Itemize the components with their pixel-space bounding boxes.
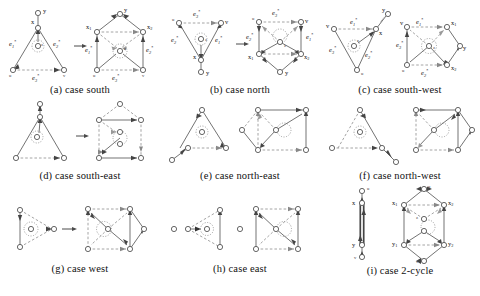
svg-text:x: x xyxy=(352,199,356,206)
panel-h: (h) case east xyxy=(160,195,320,290)
panel-i-diagram: u x y v xyxy=(320,183,480,269)
svg-text:y: y xyxy=(124,6,128,13)
svg-text:x1: x1 xyxy=(86,23,91,31)
svg-text:u: u xyxy=(172,17,175,22)
panel-d-right-graph xyxy=(96,101,143,160)
figure-graph-case-diagrams: y x z u v e1* e2* e3* xyxy=(0,0,480,296)
svg-text:x: x xyxy=(193,53,197,60)
svg-text:e3*: e3* xyxy=(396,40,404,49)
panel-d-diagram xyxy=(0,100,160,172)
panel-c-right-graph: v x1 z y u x2 e1* e3* e2* xyxy=(396,17,467,77)
svg-text:y: y xyxy=(463,44,467,51)
panel-f-diagram xyxy=(320,100,480,172)
svg-text:v: v xyxy=(142,73,145,78)
svg-text:z: z xyxy=(284,43,286,48)
panel-h-right-graph xyxy=(237,206,300,251)
svg-text:y: y xyxy=(382,6,386,13)
svg-text:x2: x2 xyxy=(448,199,453,207)
svg-text:x1: x1 xyxy=(392,199,397,207)
svg-text:y: y xyxy=(206,69,210,76)
panel-b-diagram: u v z x y e3* e2* e1* xyxy=(160,2,320,82)
svg-text:u: u xyxy=(402,68,405,73)
panel-a-caption: (a) case south xyxy=(0,84,160,95)
svg-text:x: x xyxy=(379,29,383,36)
svg-text:u: u xyxy=(367,186,370,191)
svg-text:u: u xyxy=(428,184,431,189)
panel-h-diagram xyxy=(160,195,320,265)
svg-text:y2: y2 xyxy=(448,240,453,248)
svg-text:x2: x2 xyxy=(147,23,152,31)
svg-text:e2*: e2* xyxy=(53,39,61,48)
panel-e-diagram xyxy=(160,100,320,172)
svg-text:z: z xyxy=(205,37,207,42)
panel-i-right-graph: u x1 x2 z y1 y2 v xyxy=(392,184,453,264)
panel-a-diagram: y x z u v e1* e2* e3* xyxy=(0,2,160,82)
svg-text:e2*: e2* xyxy=(171,35,179,44)
panel-c-diagram: v x z u y e1* e3* e2* xyxy=(320,2,480,82)
svg-text:x1: x1 xyxy=(248,53,253,61)
panel-f: (f) case north-west xyxy=(320,100,480,190)
svg-text:e2*: e2* xyxy=(246,32,254,41)
panel-d-left-graph xyxy=(13,101,66,160)
svg-text:e3*: e3* xyxy=(329,45,337,54)
panel-b-left-graph: u v z x y e3* e2* e1* xyxy=(171,9,229,76)
panel-f-left-graph xyxy=(329,107,398,164)
panel-c-left-graph: v x z u y e1* e3* e2* xyxy=(326,6,391,76)
panel-e-caption: (e) case north-east xyxy=(160,170,320,181)
svg-text:u: u xyxy=(93,73,96,78)
svg-text:e1*: e1* xyxy=(85,45,93,54)
svg-text:v: v xyxy=(326,22,330,29)
panel-d-caption: (d) case south-east xyxy=(0,170,160,181)
svg-text:e3*: e3* xyxy=(32,73,40,82)
panel-c-caption: (c) case south-west xyxy=(320,84,480,95)
panel-c: v x z u y e1* e3* e2* xyxy=(320,2,480,102)
panel-e-left-graph xyxy=(169,107,228,162)
panel-g-left-graph xyxy=(17,207,56,249)
svg-text:v: v xyxy=(305,17,309,24)
svg-text:e1*: e1* xyxy=(215,35,223,44)
panel-i: u x y v xyxy=(320,183,480,290)
svg-text:u: u xyxy=(252,16,255,21)
svg-text:e1*: e1* xyxy=(416,17,424,26)
panel-h-caption: (h) case east xyxy=(160,263,320,274)
panel-i-caption: (i) case 2-cycle xyxy=(320,265,480,276)
panel-e-right-graph xyxy=(239,107,308,152)
svg-text:e1*: e1* xyxy=(306,32,314,41)
svg-text:y: y xyxy=(285,69,289,76)
panel-b-caption: (b) case north xyxy=(160,84,320,95)
svg-text:x: x xyxy=(31,18,35,25)
panel-a-left-graph: y x z u v e1* e2* e3* xyxy=(9,7,67,83)
panel-b: u v z x y e3* e2* e1* xyxy=(160,2,320,102)
panel-h-left-graph xyxy=(171,207,222,249)
svg-text:z: z xyxy=(433,45,435,50)
svg-text:v: v xyxy=(63,73,66,78)
svg-text:x2: x2 xyxy=(304,53,309,61)
panel-i-left-graph: u x y v xyxy=(352,186,370,260)
svg-text:z: z xyxy=(357,38,359,43)
svg-text:x1: x1 xyxy=(451,19,456,27)
panel-g-caption: (g) case west xyxy=(0,263,160,274)
panel-g: (g) case west xyxy=(0,195,160,290)
svg-text:e1*: e1* xyxy=(350,17,358,26)
svg-text:z: z xyxy=(41,42,43,47)
svg-text:z: z xyxy=(124,46,126,51)
panel-a-right-graph: y x1 x2 z u v e1* e2* e3* xyxy=(85,6,154,83)
svg-text:e1*: e1* xyxy=(9,39,17,48)
panel-g-right-graph xyxy=(85,206,146,251)
svg-text:y: y xyxy=(352,241,356,248)
panel-a: y x z u v e1* e2* e3* xyxy=(0,2,160,102)
svg-text:x2: x2 xyxy=(451,64,456,72)
svg-text:e2*: e2* xyxy=(421,68,429,77)
svg-text:u: u xyxy=(361,71,364,76)
svg-text:z: z xyxy=(416,215,418,220)
svg-text:u: u xyxy=(9,73,12,78)
panel-f-caption: (f) case north-west xyxy=(320,170,480,181)
panel-g-diagram xyxy=(0,195,160,265)
svg-text:v: v xyxy=(354,255,357,260)
panel-b-right-graph: u v z x1 x2 y e3* e2* e1* xyxy=(246,8,314,76)
panel-f-right-graph xyxy=(413,107,474,152)
svg-text:e3*: e3* xyxy=(112,73,120,82)
svg-text:y: y xyxy=(43,7,47,14)
svg-text:e2*: e2* xyxy=(146,45,154,54)
svg-text:e2*: e2* xyxy=(365,50,373,59)
